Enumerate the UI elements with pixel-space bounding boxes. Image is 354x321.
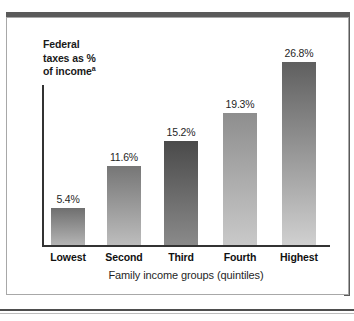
bar-slot-lowest: 5.4% <box>44 47 92 245</box>
bar-fourth[interactable] <box>223 113 257 245</box>
footer-rule-light <box>0 313 354 314</box>
x-label-second: Second <box>96 251 152 263</box>
bar-slot-third: 15.2% <box>157 47 205 245</box>
x-axis-category-labels: Lowest Second Third Fourth Highest <box>44 251 330 267</box>
x-axis-title: Family income groups (quintiles) <box>36 269 336 281</box>
x-label-lowest: Lowest <box>40 251 96 263</box>
x-axis-line <box>42 245 330 247</box>
bar-value-fourth: 19.3% <box>216 98 264 110</box>
footer-rule-dark <box>0 309 354 311</box>
bar-value-highest: 26.8% <box>275 47 323 59</box>
x-label-fourth: Fourth <box>212 251 268 263</box>
chart-plot-area: Federal taxes as % of incomea 5.4% 11.6%… <box>6 17 349 295</box>
bar-slot-highest: 26.8% <box>275 47 323 245</box>
bar-second[interactable] <box>107 166 141 245</box>
bar-third[interactable] <box>164 141 198 245</box>
bars-region: 5.4% 11.6% 15.2% 19.3% 26.8% <box>44 47 330 245</box>
bar-value-third: 15.2% <box>157 126 205 138</box>
bar-slot-second: 11.6% <box>100 47 148 245</box>
bar-lowest[interactable] <box>51 208 85 245</box>
bar-highest[interactable] <box>282 62 316 245</box>
bar-value-second: 11.6% <box>100 151 148 163</box>
x-label-third: Third <box>153 251 209 263</box>
bar-value-lowest: 5.4% <box>44 193 92 205</box>
x-label-highest: Highest <box>271 251 327 263</box>
bar-slot-fourth: 19.3% <box>216 47 264 245</box>
